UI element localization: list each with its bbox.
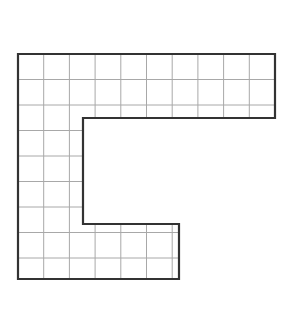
c-shape-grid-figure xyxy=(0,0,289,335)
